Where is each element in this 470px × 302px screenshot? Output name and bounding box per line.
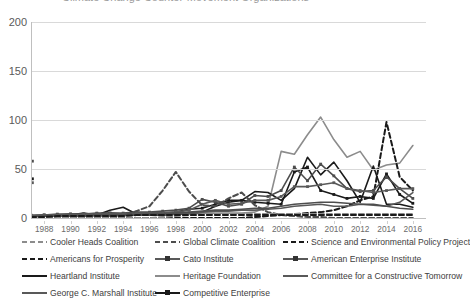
series-marker xyxy=(280,195,283,198)
x-axis-tick-label: 1992 xyxy=(84,224,110,234)
x-axis-tick-mark xyxy=(387,221,388,224)
legend-swatch-icon xyxy=(283,237,308,247)
y-axis-tick-label: 150 xyxy=(0,66,27,76)
x-axis-tick-label: 1990 xyxy=(58,224,84,234)
legend-label: Americans for Prosperity xyxy=(50,254,144,264)
series-marker xyxy=(253,194,256,197)
series-marker xyxy=(267,195,270,198)
x-axis-tick-mark xyxy=(176,221,177,224)
legend-swatch-icon xyxy=(22,288,47,298)
x-axis-tick-mark xyxy=(229,221,230,224)
x-axis-tick-label: 2002 xyxy=(216,224,242,234)
series-marker xyxy=(411,202,414,205)
series-marker xyxy=(201,198,204,201)
legend-item[interactable]: Americans for Prosperity xyxy=(22,251,144,266)
legend-item[interactable]: American Enterprise Institute xyxy=(283,251,421,266)
y-axis-labels: 200150100500 xyxy=(0,22,27,219)
legend-item[interactable]: Competitive Enterprise xyxy=(155,285,270,300)
legend-label: Cato Institute xyxy=(183,254,234,264)
x-axis-tick-label: 1994 xyxy=(110,224,136,234)
legend-label: American Enterprise Institute xyxy=(311,254,421,264)
series-marker xyxy=(240,202,243,205)
series-marker xyxy=(332,181,335,184)
legend-item[interactable]: George C. Marshall Institute xyxy=(22,285,157,300)
legend-item[interactable]: Global Climate Coalition xyxy=(155,234,275,249)
series-line xyxy=(31,167,413,216)
y-axis-tick-label: 0 xyxy=(0,213,27,223)
series-marker xyxy=(188,209,191,212)
series-marker xyxy=(385,189,388,192)
legend-item[interactable]: Heartland Institute xyxy=(22,268,120,283)
x-axis-tick-label: 2012 xyxy=(347,224,373,234)
series-marker xyxy=(359,195,362,198)
legend-item[interactable]: Cato Institute xyxy=(155,251,234,266)
series-marker xyxy=(293,171,296,174)
legend-label: Heartland Institute xyxy=(50,271,120,281)
x-axis-tick-mark xyxy=(44,221,45,224)
x-axis-tick-mark xyxy=(97,221,98,224)
x-axis-tick-mark xyxy=(255,221,256,224)
line-chart: 200150100500 198819901992199419961998200… xyxy=(0,0,437,232)
legend-item[interactable]: Committee for a Constructive Tomorrow xyxy=(283,268,462,283)
series-marker xyxy=(372,191,375,194)
series-marker xyxy=(227,203,230,206)
legend-swatch-icon xyxy=(155,288,180,298)
x-axis-labels: 1988199019921994199619982000200220042006… xyxy=(31,221,429,235)
series-marker xyxy=(385,173,388,176)
x-axis-tick-mark xyxy=(360,221,361,224)
x-axis-tick-label: 2004 xyxy=(242,224,268,234)
gridline xyxy=(31,120,426,121)
series-marker xyxy=(372,197,375,200)
series-line xyxy=(31,157,413,216)
series-marker xyxy=(240,199,243,202)
plot-area xyxy=(31,22,426,218)
legend-label: George C. Marshall Institute xyxy=(50,288,157,298)
gridline xyxy=(31,71,426,72)
series-marker xyxy=(346,187,349,190)
series-marker xyxy=(319,163,322,166)
x-axis-tick-label: 2010 xyxy=(321,224,347,234)
series-marker xyxy=(280,189,283,192)
series-marker xyxy=(253,199,256,202)
x-axis-tick-mark xyxy=(413,221,414,224)
x-axis-tick-mark xyxy=(71,221,72,224)
x-axis-tick-mark xyxy=(202,221,203,224)
legend-item[interactable]: Cooler Heads Coalition xyxy=(22,234,138,249)
series-marker xyxy=(306,179,309,182)
x-axis-tick-label: 1998 xyxy=(163,224,189,234)
x-axis-tick-mark xyxy=(123,221,124,224)
y-axis-tick-label: 50 xyxy=(0,164,27,174)
legend-swatch-icon xyxy=(155,237,180,247)
series-marker xyxy=(214,199,217,202)
series-marker xyxy=(332,193,335,196)
y-axis-line xyxy=(31,22,32,219)
series-line xyxy=(31,215,413,217)
y-axis-tick-label: 200 xyxy=(0,17,27,27)
x-axis-tick-mark xyxy=(308,221,309,224)
x-axis-tick-mark xyxy=(281,221,282,224)
x-axis-line xyxy=(31,218,426,219)
series-marker xyxy=(385,175,388,178)
legend-label: Cooler Heads Coalition xyxy=(50,237,138,247)
y-axis-tick-label: 100 xyxy=(0,115,27,125)
series-marker xyxy=(411,187,414,190)
series-marker xyxy=(267,202,270,205)
legend-swatch-icon xyxy=(283,271,308,281)
legend-swatch-icon xyxy=(155,271,180,281)
legend-label: Global Climate Coalition xyxy=(183,237,275,247)
x-axis-tick-label: 2000 xyxy=(189,224,215,234)
legend-swatch-icon xyxy=(22,237,47,247)
x-axis-tick-label: 2014 xyxy=(374,224,400,234)
series-marker xyxy=(319,183,322,186)
legend-item[interactable]: Heritage Foundation xyxy=(155,268,261,283)
x-axis-tick-mark xyxy=(150,221,151,224)
series-marker xyxy=(280,203,283,206)
legend-swatch-icon xyxy=(22,254,47,264)
series-marker xyxy=(319,189,322,192)
series-marker xyxy=(411,197,414,200)
x-axis-tick-label: 1988 xyxy=(31,224,57,234)
gridline xyxy=(31,22,426,23)
legend-label: Heritage Foundation xyxy=(183,271,261,281)
legend-item[interactable]: Science and Environmental Policy Project xyxy=(283,234,470,249)
